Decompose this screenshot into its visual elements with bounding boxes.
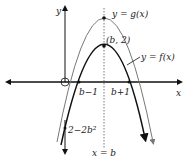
vertex-label: (b, 2) <box>106 35 131 45</box>
root-left-label: b−1 <box>79 87 98 97</box>
f-curve-label: y = f(x) <box>140 52 175 62</box>
y-intercept-label: 2−2b² <box>67 125 97 135</box>
root-right-dot <box>128 81 131 84</box>
y-intercept-dot <box>64 127 67 130</box>
g-vertex-dot <box>102 16 106 20</box>
root-left-dot <box>78 81 81 84</box>
root-right-label: b+1 <box>111 87 130 97</box>
parabola-diagram: y x y = g(x) y = f(x) (b, 2) b−1 b+1 2−2… <box>0 0 183 160</box>
y-axis-label: y <box>55 6 62 16</box>
g-curve-label: y = g(x) <box>111 9 149 19</box>
symmetry-label: x = b <box>92 148 116 158</box>
g-curve <box>57 18 153 142</box>
x-axis-label: x <box>176 88 181 98</box>
